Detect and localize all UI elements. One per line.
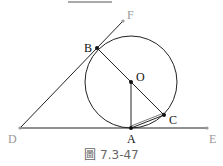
label-a: A <box>127 132 136 146</box>
point-a <box>129 126 133 130</box>
label-d: D <box>8 132 17 146</box>
point-o <box>129 80 133 84</box>
label-f: F <box>127 8 134 22</box>
point-b <box>95 46 99 50</box>
point-f <box>121 19 124 22</box>
chord-ac <box>131 115 164 128</box>
chord-ac-double <box>131 113 164 126</box>
figure-caption: 圖 7.3-47 <box>0 145 223 162</box>
label-o: O <box>136 70 145 84</box>
label-b: B <box>84 41 92 55</box>
geometry-diagram: B F O A C D E <box>0 0 223 166</box>
label-e: E <box>209 132 216 146</box>
point-d <box>18 126 21 129</box>
label-c: C <box>169 113 177 127</box>
point-c <box>162 113 166 117</box>
point-e <box>205 126 208 129</box>
tangent-line-df <box>20 21 123 128</box>
